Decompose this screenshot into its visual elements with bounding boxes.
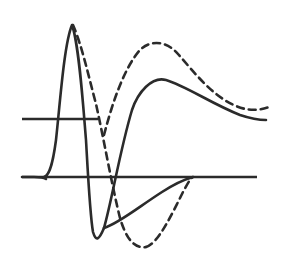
figure-container — [0, 0, 287, 258]
line-chart-svg — [0, 0, 287, 258]
chart-background — [0, 0, 287, 258]
